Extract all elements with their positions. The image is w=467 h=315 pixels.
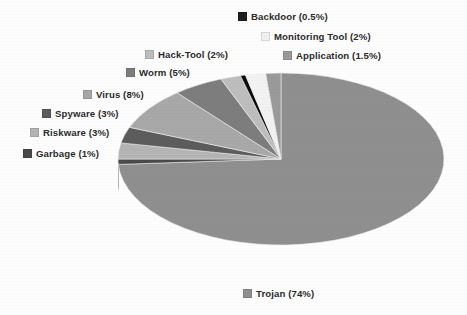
worm-label-text: Worm (5%) <box>139 68 190 78</box>
slice-label-trojan: Trojan (74%) <box>243 289 314 299</box>
pie-top-face <box>118 73 444 245</box>
hack-tool-swatch-icon <box>145 50 154 59</box>
application-swatch-icon <box>283 51 292 60</box>
hack-tool-label-text: Hack-Tool (2%) <box>158 50 228 60</box>
spyware-swatch-icon <box>42 109 51 118</box>
trojan-label-text: Trojan (74%) <box>256 289 314 299</box>
slice-label-application: Application (1.5%) <box>283 51 381 61</box>
pie-chart-figure: Backdoor (0.5%) Monitoring Tool (2%) App… <box>0 0 467 315</box>
worm-swatch-icon <box>126 68 135 77</box>
riskware-label-text: Riskware (3%) <box>43 128 109 138</box>
riskware-swatch-icon <box>30 128 39 137</box>
backdoor-swatch-icon <box>238 12 247 21</box>
slice-label-virus: Virus (8%) <box>83 90 144 100</box>
trojan-swatch-icon <box>243 289 252 298</box>
slice-label-hack-tool: Hack-Tool (2%) <box>145 50 228 60</box>
virus-swatch-icon <box>83 90 92 99</box>
application-label-text: Application (1.5%) <box>296 51 381 61</box>
virus-label-text: Virus (8%) <box>96 90 144 100</box>
slice-label-spyware: Spyware (3%) <box>42 109 119 119</box>
slice-label-backdoor: Backdoor (0.5%) <box>238 12 328 22</box>
slice-label-worm: Worm (5%) <box>126 68 190 78</box>
monitoring-tool-label-text: Monitoring Tool (2%) <box>274 32 371 42</box>
spyware-label-text: Spyware (3%) <box>55 109 119 119</box>
backdoor-label-text: Backdoor (0.5%) <box>251 12 328 22</box>
slice-label-riskware: Riskware (3%) <box>30 128 109 138</box>
garbage-swatch-icon <box>23 149 32 158</box>
monitoring-tool-swatch-icon <box>261 32 270 41</box>
slice-label-garbage: Garbage (1%) <box>23 149 99 159</box>
slice-label-monitoring-tool: Monitoring Tool (2%) <box>261 32 371 42</box>
garbage-label-text: Garbage (1%) <box>36 149 99 159</box>
